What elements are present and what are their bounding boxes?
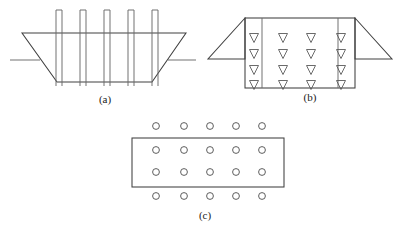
triangle-marker — [279, 66, 288, 75]
circle-marker — [259, 147, 266, 154]
circle-marker — [233, 193, 240, 200]
circle-marker — [259, 169, 266, 176]
circle-marker — [153, 123, 160, 130]
circle-marker — [207, 169, 214, 176]
circle-marker — [181, 193, 188, 200]
circle-marker — [181, 123, 188, 130]
circle-marker — [153, 193, 160, 200]
figure-root: (a) — [0, 0, 399, 236]
circle-marker — [233, 123, 240, 130]
circle-marker — [233, 169, 240, 176]
wing-left — [208, 18, 245, 59]
circle-marker — [233, 147, 240, 154]
circle-marker — [207, 193, 214, 200]
panel-b-caption: (b) — [290, 91, 330, 103]
plan-rectangle — [132, 138, 284, 187]
circle-marker — [153, 169, 160, 176]
circle-marker — [181, 169, 188, 176]
circle-marker — [181, 147, 188, 154]
triangle-marker — [307, 34, 316, 43]
panel-c-caption: (c) — [185, 209, 225, 221]
circle-marker — [259, 123, 266, 130]
pile-group — [56, 10, 158, 86]
pile — [104, 10, 110, 86]
pile — [80, 10, 86, 86]
triangle-marker — [307, 50, 316, 59]
circle-marker — [153, 147, 160, 154]
wing-right — [355, 18, 392, 59]
circle-marker — [259, 193, 266, 200]
panel-a-caption: (a) — [85, 93, 125, 105]
circle-marker — [207, 147, 214, 154]
triangle-marker — [250, 50, 259, 59]
triangle-marker — [279, 34, 288, 43]
pile — [56, 10, 62, 86]
triangle-marker — [250, 66, 259, 75]
triangle-marker — [250, 34, 259, 43]
triangle-marker-grid — [250, 34, 346, 90]
triangle-marker — [307, 66, 316, 75]
pile — [128, 10, 134, 86]
triangle-marker — [279, 50, 288, 59]
circle-marker — [207, 123, 214, 130]
circle-marker-grid — [153, 123, 266, 200]
